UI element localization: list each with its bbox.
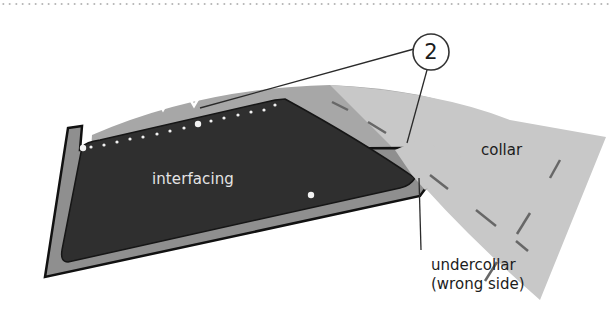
step-number-callout: 2 <box>413 34 449 70</box>
collar-label: collar <box>481 141 522 159</box>
undercollar-label-line1: undercollar <box>431 256 525 275</box>
undercollar-label-line2: (wrong side) <box>431 275 525 294</box>
interfacing-label: interfacing <box>152 170 234 188</box>
undercollar-label: undercollar (wrong side) <box>431 256 525 294</box>
diagram-canvas: 2 interfacing collar undercollar (wrong … <box>0 0 609 315</box>
